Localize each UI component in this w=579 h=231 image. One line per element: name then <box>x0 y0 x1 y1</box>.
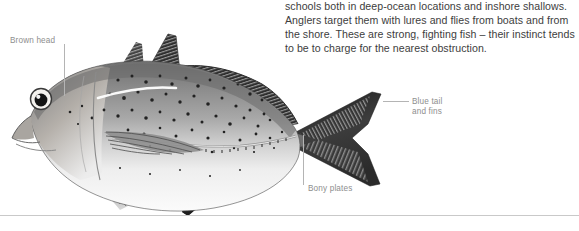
body-line-1: schools both in deep-ocean locations and… <box>285 0 575 13</box>
callout-label-blue-tail: Blue tail and fins <box>412 97 442 116</box>
horizontal-divider <box>0 215 579 216</box>
callout-label-blue-tail-line1: Blue tail <box>412 97 442 106</box>
eye <box>31 89 52 110</box>
leader-line-blue-tail <box>383 101 409 102</box>
body-paragraph: schools both in deep-ocean locations and… <box>285 0 575 55</box>
body-line-4: to be to charge for the nearest obstruct… <box>285 41 575 55</box>
leader-line-brown-head <box>64 44 65 96</box>
leader-line-bony-plates <box>303 135 304 185</box>
page-canvas: schools both in deep-ocean locations and… <box>0 0 579 231</box>
callout-label-bony-plates: Bony plates <box>308 184 352 194</box>
body-line-3: the shore. These are strong, fighting fi… <box>285 27 575 41</box>
callout-label-blue-tail-line2: and fins <box>412 107 442 116</box>
caudal-fin <box>296 92 381 186</box>
body-line-2: Anglers target them with lures and flies… <box>285 13 575 27</box>
callout-label-brown-head: Brown head <box>10 36 55 46</box>
